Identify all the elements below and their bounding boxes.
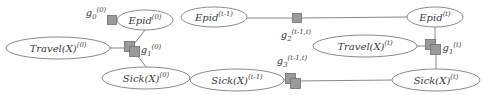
factor-node-g0-0[interactable]	[108, 16, 117, 25]
factor-node-g1-0-front[interactable]	[130, 47, 140, 57]
factor-node-g3-t-front[interactable]	[291, 79, 301, 89]
variable-nodes	[6, 7, 480, 91]
edge-epid0-to-g1	[134, 30, 145, 44]
edge-g2-to-epidt	[302, 17, 407, 18]
factor-node-g2-t[interactable]	[293, 14, 302, 23]
variable-node-sick-x-t-1[interactable]	[190, 69, 284, 91]
variable-node-epid-0[interactable]	[117, 10, 173, 30]
variable-node-epid-t[interactable]	[407, 7, 463, 27]
variable-node-sick-x-0[interactable]	[102, 67, 190, 89]
variable-node-epid-t-1[interactable]	[181, 7, 247, 27]
variable-node-travel-x-0[interactable]	[6, 37, 110, 59]
variable-node-sick-x-t[interactable]	[392, 69, 480, 91]
edge-g3-to-sickt	[296, 80, 392, 81]
factor-graph-figure: Epid(0) Travel(X)(0) Sick(X)(0) g0(0) g1…	[0, 0, 484, 95]
factor-node-g1-t-front[interactable]	[431, 45, 441, 55]
variable-node-travel-x-t[interactable]	[313, 35, 417, 57]
graph-canvas	[0, 0, 484, 95]
